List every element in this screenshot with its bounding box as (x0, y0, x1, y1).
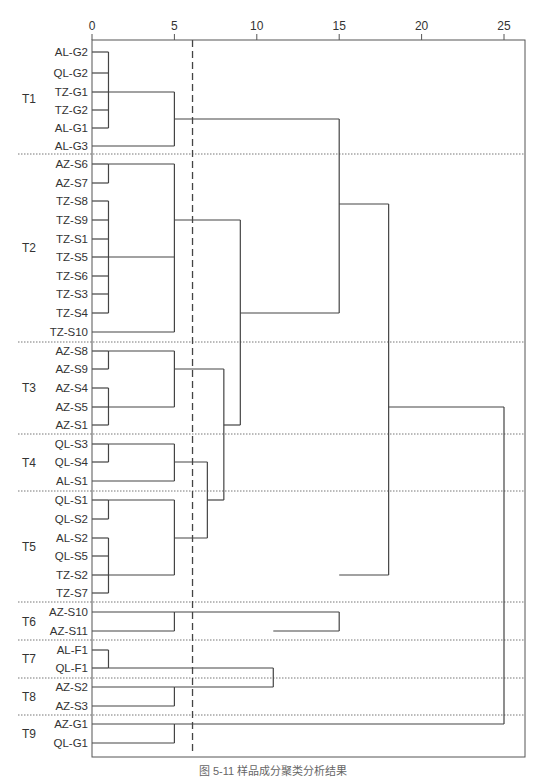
axis-tick-label: 15 (333, 19, 347, 33)
leaf-label: TZ-S3 (56, 288, 88, 300)
leaf-label: AL-S2 (56, 532, 88, 544)
axis-tick-label: 20 (415, 19, 429, 33)
leaf-labels: AL-G2QL-G2TZ-G1TZ-G2AL-G1AL-G3AZ-S6AZ-S7… (49, 46, 89, 749)
group-label: T2 (22, 241, 36, 255)
leaf-label: TZ-G2 (55, 104, 88, 116)
leaf-label: AL-G1 (55, 122, 88, 134)
group-label: T7 (22, 652, 36, 666)
leaf-label: AZ-S4 (55, 382, 88, 394)
leaf-label: AZ-S1 (55, 419, 88, 431)
leaf-label: AZ-S11 (50, 625, 88, 637)
leaf-label: TZ-S9 (56, 214, 88, 226)
group-label: T4 (22, 456, 36, 470)
group-label: T6 (22, 615, 36, 629)
leaf-label: TZ-S6 (56, 270, 88, 282)
plot-frame (92, 40, 525, 757)
leaf-label: AZ-S10 (49, 606, 88, 618)
axis-tick-label: 5 (171, 19, 178, 33)
leaf-label: QL-S5 (55, 550, 88, 562)
leaf-label: AL-S1 (56, 475, 88, 487)
leaf-label: AZ-G1 (54, 718, 88, 730)
leaf-label: AL-F1 (57, 644, 88, 656)
leaf-label: AZ-S5 (55, 401, 88, 413)
dendrogram-chart: 0510152025 AL-G2QL-G2TZ-G1TZ-G2AL-G1AL-G… (0, 0, 546, 760)
leaf-label: QL-S2 (55, 513, 88, 525)
leaf-label: AZ-S7 (55, 177, 88, 189)
group-label: T5 (22, 540, 36, 554)
axis-tick-label: 10 (250, 19, 264, 33)
leaf-label: TZ-S2 (56, 569, 88, 581)
x-axis: 0510152025 (89, 19, 511, 40)
leaf-label: TZ-G1 (55, 86, 88, 98)
leaf-label: TZ-S5 (56, 251, 88, 263)
group-label: T9 (22, 727, 36, 741)
leaf-label: QL-S4 (55, 456, 89, 468)
group-label: T8 (22, 690, 36, 704)
leaf-label: AZ-S9 (55, 363, 88, 375)
group-label: T3 (22, 381, 36, 395)
leaf-label: QL-F1 (55, 662, 88, 674)
leaf-label: AL-G2 (55, 46, 88, 58)
leaf-label: AZ-S2 (55, 681, 88, 693)
leaf-label: TZ-S10 (50, 326, 88, 338)
leaf-label: TZ-S8 (56, 195, 88, 207)
group-labels: T1T2T3T4T5T6T7T8T9 (22, 92, 36, 741)
leaf-label: TZ-S4 (56, 307, 89, 319)
group-label: T1 (22, 92, 36, 106)
leaf-label: AL-G3 (55, 140, 88, 152)
leaf-label: TZ-S7 (56, 587, 88, 599)
axis-tick-label: 25 (497, 19, 511, 33)
leaf-label: QL-S1 (55, 494, 88, 506)
leaf-label: AZ-S3 (55, 700, 88, 712)
leaf-label: QL-G2 (53, 67, 88, 79)
leaf-label: QL-G1 (53, 737, 88, 749)
leaf-label: TZ-S1 (56, 233, 88, 245)
figure-caption: 图 5-11 样品成分聚类分析结果 (0, 762, 546, 778)
leaf-label: AZ-S6 (55, 158, 88, 170)
leaf-label: AZ-S8 (55, 345, 88, 357)
dendrogram-links (92, 52, 504, 743)
axis-tick-label: 0 (89, 19, 96, 33)
leaf-label: QL-S3 (55, 438, 88, 450)
